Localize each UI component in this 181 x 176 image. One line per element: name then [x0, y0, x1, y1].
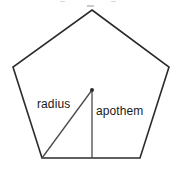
center-point-dot	[90, 88, 94, 92]
apothem-label: apothem	[96, 105, 143, 117]
pentagon-diagram: radius apothem	[0, 0, 181, 176]
regular-pentagon-outline	[13, 10, 169, 158]
pentagon-svg-canvas	[0, 0, 181, 176]
radius-label: radius	[37, 98, 70, 110]
